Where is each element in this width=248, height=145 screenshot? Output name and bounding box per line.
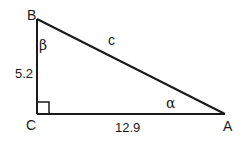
side-ab-hypotenuse-line [37, 19, 225, 114]
right-angle-marker [37, 102, 49, 114]
vertex-b-label: B [27, 8, 36, 22]
angle-beta-label: β [39, 38, 47, 52]
side-ab-length-label: c [108, 33, 115, 47]
angle-alpha-label: α [166, 96, 175, 110]
vertex-c-label: C [26, 118, 36, 132]
side-bc-length-label: 5.2 [15, 67, 33, 80]
vertex-a-label: A [223, 119, 232, 133]
side-ca-length-label: 12.9 [115, 121, 140, 134]
